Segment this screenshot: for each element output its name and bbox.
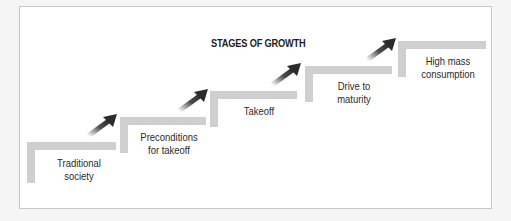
up-right-arrow-icon	[270, 61, 304, 87]
step-riser	[398, 41, 406, 77]
stage-takeoff: Takeoff	[210, 91, 297, 127]
stage-high-mass-consumption: High mass consumption	[398, 41, 486, 77]
stage-preconditions-for-takeoff: Preconditions for takeoff	[120, 117, 206, 153]
step-tread	[120, 117, 206, 125]
step-riser	[210, 91, 218, 127]
step-riser	[120, 117, 128, 153]
up-right-arrow-icon	[177, 87, 211, 113]
stage-drive-to-maturity: Drive to maturity	[305, 66, 392, 102]
up-right-arrow-icon	[86, 112, 120, 138]
step-riser	[305, 66, 313, 102]
up-right-arrow-icon	[365, 36, 399, 62]
step-riser	[27, 142, 35, 183]
step-tread	[210, 91, 297, 99]
step-tread	[27, 142, 116, 150]
stage-label: Drive to maturity	[323, 80, 386, 106]
step-tread	[398, 41, 486, 49]
stage-label: High mass consumption	[414, 55, 482, 81]
stage-label: Preconditions for takeoff	[136, 131, 203, 157]
stage-label: Takeoff	[228, 105, 291, 118]
stage-traditional-society: Traditional society	[27, 142, 116, 183]
step-tread	[305, 66, 392, 74]
diagram-title: STAGES OF GROWTH	[211, 37, 306, 49]
stage-label: Traditional society	[52, 157, 106, 183]
